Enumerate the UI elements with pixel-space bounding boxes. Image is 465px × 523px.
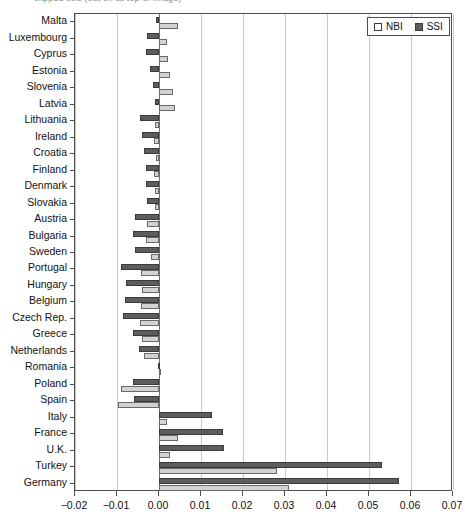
bar-row [75,443,451,459]
nbi-bar [156,155,159,161]
ssi-bar [146,165,159,171]
bar-row [75,162,451,178]
nbi-bar [159,105,175,111]
nbi-bar [159,452,170,458]
x-axis-tick [200,491,201,496]
x-axis-tick [368,491,369,496]
bar-row [75,294,451,310]
legend-swatch-icon [374,23,382,31]
y-axis-label: Malta [41,15,67,26]
ssi-bar [133,231,159,237]
ssi-bar [146,49,159,55]
bar-row [75,278,451,294]
ssi-bar [155,99,159,105]
ssi-bar [146,181,159,187]
bar-rows [75,14,451,490]
ssi-bar [156,17,159,23]
nbi-bar [155,122,159,128]
bar-row [75,179,451,195]
ssi-bar [150,66,159,72]
nbi-bar [159,72,170,78]
nbi-bar [155,188,159,194]
ssi-bar [147,33,159,39]
x-axis-label: 0.05 [358,499,378,511]
ssi-bar [142,132,159,138]
y-axis-label: Ireland [35,131,67,142]
legend-swatch-icon [415,23,423,31]
y-axis-label: Netherlands [10,345,67,356]
x-axis-label: 0.04 [316,499,336,511]
x-axis-tick [158,491,159,496]
nbi-bar [159,23,178,29]
x-axis-tick [116,491,117,496]
bar-row [75,47,451,63]
x-axis-label: 0.00 [148,499,168,511]
bar-row [75,96,451,112]
bar-row [75,195,451,211]
bar-row [75,459,451,475]
x-axis-tick [284,491,285,496]
horizontal-bar-chart: clipped title (cut off at top of image) … [0,0,465,523]
ssi-bar [125,297,159,303]
nbi-bar [159,435,178,441]
ssi-bar [153,82,159,88]
bar-row [75,63,451,79]
y-axis-label: France [34,427,67,438]
ssi-bar [159,462,382,468]
chart-legend: NBISSI [367,17,450,36]
x-axis: −0.02−0.010.000.010.020.030.040.050.060.… [74,491,452,523]
y-axis-label: Croatia [33,147,67,158]
y-axis-label: Latvia [39,98,67,109]
y-axis-label: Spain [40,394,67,405]
x-axis-label: 0.02 [232,499,252,511]
nbi-bar [159,369,161,375]
nbi-bar [159,89,173,95]
x-axis-tick [410,491,411,496]
x-axis-tick [326,491,327,496]
y-axis-label: Slovakia [27,197,67,208]
y-axis-label: Poland [34,378,67,389]
x-axis-label: −0.02 [61,499,88,511]
bar-row [75,377,451,393]
ssi-bar [140,115,159,121]
x-axis-label: 0.03 [274,499,294,511]
x-axis-label: 0.06 [400,499,420,511]
x-axis-tick [242,491,243,496]
chart-title: clipped title (cut off at top of image) [34,0,182,3]
y-axis-label: Cyprus [34,48,67,59]
ssi-bar [133,379,159,385]
ssi-bar [144,148,159,154]
nbi-bar [159,39,167,45]
ssi-bar [158,363,160,369]
nbi-bar [141,270,159,276]
nbi-bar [142,336,159,342]
nbi-bar [118,402,159,408]
bar-row [75,228,451,244]
x-axis-label: 0.07 [442,499,462,511]
nbi-bar [140,320,159,326]
nbi-bar [151,254,159,260]
plot-area [74,13,452,491]
nbi-bar [154,138,159,144]
nbi-bar [159,468,277,474]
chart-title-strip: clipped title (cut off at top of image) [0,0,465,11]
y-axis-label: Bulgaria [28,230,67,241]
ssi-bar [123,313,159,319]
bar-row [75,212,451,228]
ssi-bar [121,264,159,270]
legend-entry-ssi: SSI [415,21,443,32]
bar-row [75,426,451,442]
y-axis-label: Lithuania [24,114,67,125]
bar-row [75,360,451,376]
ssi-bar [126,280,159,286]
y-axis-label: Greece [33,328,67,339]
y-axis-label: Romania [25,361,67,372]
legend-entry-nbi: NBI [374,21,403,32]
y-axis-label: Austria [34,213,67,224]
nbi-bar [146,237,159,243]
bar-row [75,393,451,409]
y-axis-label: Luxembourg [9,32,67,43]
bar-row [75,261,451,277]
legend-label: NBI [386,21,403,32]
bar-row [75,311,451,327]
